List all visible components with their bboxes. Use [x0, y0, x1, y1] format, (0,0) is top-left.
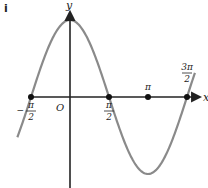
- tick-label: 2: [27, 112, 34, 122]
- y-axis-label: y: [65, 0, 73, 12]
- tick-label: 2: [105, 112, 112, 122]
- panel-label: i: [4, 2, 8, 15]
- point-marker: [145, 94, 151, 100]
- tick-label: 3π: [181, 62, 194, 72]
- origin-label: O: [56, 102, 64, 113]
- marked-points: π2−π2π3π2: [16, 62, 193, 122]
- x-axis-label: x: [203, 91, 208, 104]
- tick-label: π: [144, 82, 152, 92]
- tick-label: −: [16, 105, 24, 115]
- tick-label: 2: [183, 74, 190, 84]
- tick-label: π: [105, 100, 113, 110]
- point-marker: [184, 94, 190, 100]
- cosine-graph: i y x O π2−π2π3π2: [0, 0, 208, 188]
- tick-label: π: [27, 100, 35, 110]
